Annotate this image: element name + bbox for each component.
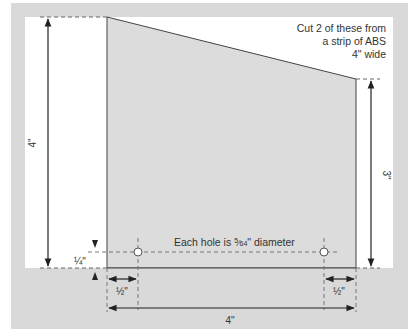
right-hole-icon bbox=[320, 248, 328, 256]
bottom-width-label: 4" bbox=[225, 315, 235, 326]
cut-note-line-1: Cut 2 of these from bbox=[297, 22, 387, 34]
left-half-inch-label: ½" bbox=[116, 286, 128, 297]
cut-note-line-2: a strip of ABS bbox=[322, 35, 386, 47]
quarter-inch-label: ¼" bbox=[74, 256, 86, 267]
left-hole-icon bbox=[134, 248, 142, 256]
cut-note-line-3: 4" wide bbox=[352, 48, 386, 60]
left-height-label: 4" bbox=[27, 138, 38, 148]
right-height-label: 3" bbox=[381, 170, 392, 180]
part-drawing: 4" 3" Cut 2 of these from a strip of ABS… bbox=[0, 0, 413, 336]
right-half-inch-label: ½" bbox=[333, 286, 345, 297]
